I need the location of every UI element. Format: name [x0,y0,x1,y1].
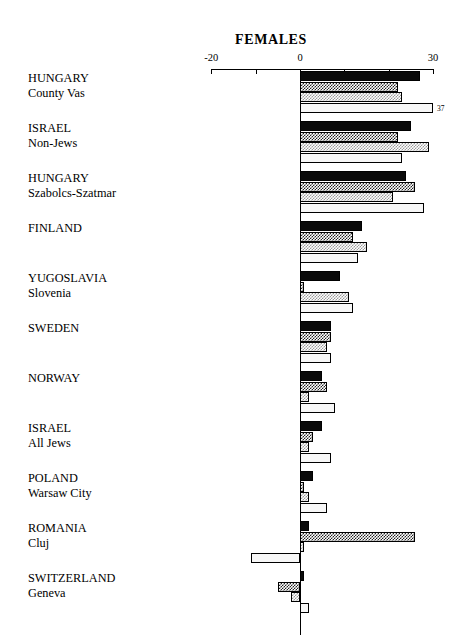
bar-series-1 [300,221,362,231]
category-label-country: SWEDEN [28,321,79,336]
category-label-region: Cluj [28,536,87,551]
bar-series-2 [300,532,415,542]
category-label-country: SWITZERLAND [28,571,115,586]
category-label: HUNGARYCounty Vas [28,71,89,100]
bar-group: NORWAY [0,371,470,421]
bar-series-4 [300,153,402,163]
category-label-country: POLAND [28,471,92,486]
bar-group: SWITZERLANDGeneva [0,571,470,621]
category-label: YUGOSLAVIASlovenia [28,271,107,300]
bar-group: HUNGARYSzabolcs-Szatmar [0,171,470,221]
category-label-country: ISRAEL [28,421,71,436]
category-label-region: Geneva [28,586,115,601]
bar-series-3 [300,242,367,252]
bar-group: ISRAELNon-Jews [0,121,470,171]
category-label: ISRAELNon-Jews [28,121,77,150]
bar-series-3 [300,442,309,452]
bar-series-1 [300,121,411,131]
bar-series-1 [300,71,420,81]
bar-series-4 [300,403,335,413]
bar-series-3 [291,592,300,602]
bar-series-1 [300,571,304,581]
category-label: ROMANIACluj [28,521,87,550]
category-label-region: Warsaw City [28,486,92,501]
category-label: ISRAELAll Jews [28,421,71,450]
bar-series-4 [300,253,358,263]
category-label: NORWAY [28,371,80,386]
bar-series-4 [300,303,353,313]
chart-container: FEMALES -20030 HUNGARYCounty Vas37ISRAEL… [0,0,470,641]
category-label-country: ROMANIA [28,521,87,536]
bar-series-4 [300,453,331,463]
bar-series-3 [300,492,309,502]
bar-group: HUNGARYCounty Vas37 [0,71,470,121]
bar-group: ROMANIACluj [0,521,470,571]
bar-group: YUGOSLAVIASlovenia [0,271,470,321]
bar-series-1 [300,321,331,331]
category-label-region: Szabolcs-Szatmar [28,186,116,201]
category-label-country: ISRAEL [28,121,77,136]
bar-series-2 [300,332,331,342]
category-label-country: HUNGARY [28,71,89,86]
bar-series-2 [300,432,313,442]
bar-series-3 [300,142,429,152]
bar-value-annotation: 37 [437,104,445,114]
bar-series-4 [300,103,433,113]
bar-series-2 [300,282,304,292]
bar-group: FINLAND [0,221,470,271]
axis-tick-label: -20 [204,52,218,63]
bar-series-2 [300,132,398,142]
bar-series-3 [300,92,402,102]
bar-series-4 [300,503,327,513]
bar-series-2 [300,482,304,492]
bar-group: ISRAELAll Jews [0,421,470,471]
category-label-country: HUNGARY [28,171,116,186]
bar-series-3 [300,542,304,552]
bar-group: SWEDEN [0,321,470,371]
category-label-region: Slovenia [28,286,107,301]
category-label: SWITZERLANDGeneva [28,571,115,600]
chart-title: FEMALES [0,32,470,48]
axis-tick-label: 0 [297,52,302,63]
bar-series-2 [300,182,415,192]
bar-series-4 [300,203,424,213]
bar-series-2 [300,382,327,392]
bar-series-1 [300,471,313,481]
bar-series-3 [300,292,349,302]
category-label-region: County Vas [28,86,89,101]
category-label-country: NORWAY [28,371,80,386]
category-label: FINLAND [28,221,82,236]
bar-series-2 [278,582,300,592]
category-label-region: Non-Jews [28,136,77,151]
bar-series-3 [300,392,309,402]
bar-series-3 [300,342,327,352]
bar-series-4 [300,603,309,613]
category-label-region: All Jews [28,436,71,451]
bar-series-3 [300,192,393,202]
axis-tick-label: 30 [428,52,439,63]
category-label: HUNGARYSzabolcs-Szatmar [28,171,116,200]
category-label: SWEDEN [28,321,79,336]
bar-series-1 [300,521,309,531]
bar-series-1 [300,171,406,181]
category-label-country: YUGOSLAVIA [28,271,107,286]
bar-series-4 [251,553,300,563]
bar-series-1 [300,271,340,281]
bar-series-4 [300,353,331,363]
chart-title-text: FEMALES [235,32,307,47]
bar-series-2 [300,82,398,92]
bar-series-1 [300,371,322,381]
plot-area: HUNGARYCounty Vas37ISRAELNon-JewsHUNGARY… [0,69,470,641]
bar-series-1 [300,421,322,431]
bar-series-2 [300,232,353,242]
category-label-country: FINLAND [28,221,82,236]
category-label: POLANDWarsaw City [28,471,92,500]
bar-group: POLANDWarsaw City [0,471,470,521]
